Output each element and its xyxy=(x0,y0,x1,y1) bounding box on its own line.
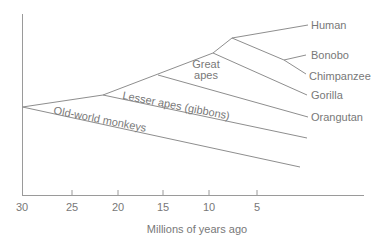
chimp-bonobo-stem-branch xyxy=(232,38,284,60)
taxon-label-orangutan: Orangutan xyxy=(311,111,363,123)
taxon-label-gorilla: Gorilla xyxy=(311,89,343,101)
taxon-label-chimpanzee: Chimpanzee xyxy=(309,70,371,82)
x-axis-title: Millions of years ago xyxy=(132,223,262,235)
x-tick-label-30: 30 xyxy=(7,201,37,213)
taxon-label-human: Human xyxy=(311,19,346,31)
x-tick-label-25: 25 xyxy=(57,201,87,213)
phylogenetic-tree-figure: Human Bonobo Chimpanzee Gorilla Oranguta… xyxy=(0,0,380,247)
x-tick-label-20: 20 xyxy=(103,201,133,213)
clade-label-great-apes: Great apes xyxy=(183,59,229,80)
human-branch xyxy=(232,25,308,38)
x-tick-label-5: 5 xyxy=(242,201,272,213)
chimpanzee-branch xyxy=(284,60,306,74)
taxon-label-bonobo: Bonobo xyxy=(311,49,349,61)
x-tick-label-15: 15 xyxy=(148,201,178,213)
bonobo-branch xyxy=(284,55,306,60)
tree-branches xyxy=(23,25,309,167)
x-tick-label-10: 10 xyxy=(194,201,224,213)
